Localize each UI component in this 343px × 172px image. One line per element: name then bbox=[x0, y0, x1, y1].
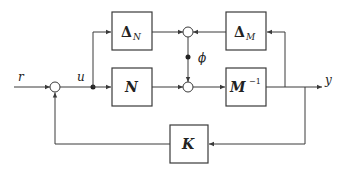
delta-n-symbol: Δ bbox=[121, 24, 132, 40]
output-sum-junction bbox=[183, 82, 193, 92]
input-sum-junction bbox=[50, 82, 60, 92]
r-label: r bbox=[18, 70, 25, 84]
y-label: y bbox=[324, 73, 332, 87]
u-to-delta-n-arrow bbox=[93, 32, 111, 87]
u-label: u bbox=[77, 70, 85, 84]
delta-m-subscript: M bbox=[245, 32, 256, 42]
phi-node bbox=[186, 55, 191, 60]
n-block: N bbox=[112, 68, 152, 106]
m-inverse-block: M −1 bbox=[226, 68, 266, 106]
delta-n-subscript: N bbox=[132, 32, 142, 42]
delta-n-block: Δ N bbox=[112, 12, 152, 50]
k-symbol: K bbox=[181, 136, 195, 152]
k-block: K bbox=[170, 125, 208, 163]
y-to-delta-m-arrow bbox=[267, 32, 285, 87]
delta-m-symbol: Δ bbox=[234, 24, 245, 40]
block-diagram: Δ N N ϕ Δ M M −1 y K r u bbox=[0, 0, 343, 172]
m-inverse-symbol: M bbox=[229, 79, 246, 95]
m-inverse-superscript: −1 bbox=[249, 77, 261, 86]
n-symbol: N bbox=[124, 79, 139, 95]
delta-m-block: Δ M bbox=[226, 12, 266, 50]
phi-label: ϕ bbox=[198, 51, 206, 65]
perturbation-sum-junction bbox=[183, 27, 193, 37]
